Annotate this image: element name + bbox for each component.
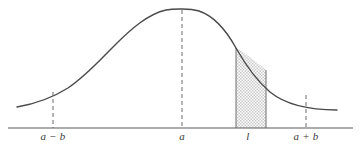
label-l: l [246,130,249,142]
shaded-strip [236,48,266,128]
label-a-minus-b: a − b [41,130,66,142]
figure-canvas [0,0,362,148]
normal-curve [17,9,337,110]
distribution-figure: a − b a l a + b [0,0,362,148]
shaded-strip-fill [236,48,266,128]
label-a-plus-b: a + b [294,130,319,142]
label-a: a [179,130,185,142]
